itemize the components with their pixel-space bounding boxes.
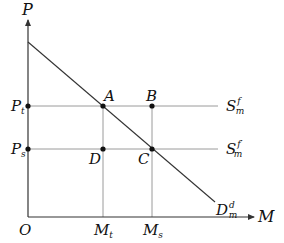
demand-curve <box>28 42 215 202</box>
supply-label-sf: Sfm <box>226 96 244 116</box>
point-a-label: A <box>102 87 115 105</box>
point-ps-marker <box>25 146 30 151</box>
point-d-marker <box>100 146 105 151</box>
demand-label: Ddm <box>215 200 237 220</box>
point-d-label: D <box>88 150 101 168</box>
price-label-ps: Ps <box>10 140 26 159</box>
origin-label: O <box>19 221 31 239</box>
point-c-label: C <box>138 150 150 168</box>
price-label-pt: Pt <box>10 97 25 116</box>
point-pt-marker <box>25 103 30 108</box>
y-axis-label: P <box>21 0 33 19</box>
x-axis-label: M <box>257 207 275 226</box>
quantity-label-ms: Ms <box>142 221 163 240</box>
quantity-label-mt: Mt <box>93 221 113 240</box>
point-b-label: B <box>145 87 157 105</box>
supply-label-sf-prime: Sf′m <box>226 139 243 159</box>
supply-demand-diagram: P M O Pt Ps Mt Ms A B C D Sfm Sf′m Ddm <box>0 0 284 243</box>
point-c-marker <box>149 146 154 151</box>
